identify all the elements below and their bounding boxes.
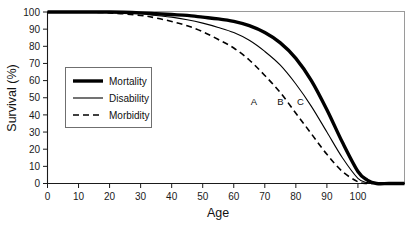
- y-tick-label: 80: [29, 41, 41, 52]
- x-tick-label: 100: [350, 191, 367, 202]
- x-tick-label: 0: [45, 191, 51, 202]
- y-tick-label: 40: [29, 110, 41, 121]
- annotation-B: B: [277, 96, 283, 107]
- y-tick-label: 60: [29, 75, 41, 86]
- x-tick-label: 20: [104, 191, 116, 202]
- x-axis-title: Age: [207, 206, 229, 220]
- x-tick-label: 80: [290, 191, 302, 202]
- y-axis-title: Survival (%): [5, 64, 19, 131]
- y-tick-label: 90: [29, 24, 41, 35]
- x-tick-label: 10: [73, 191, 85, 202]
- legend-label-morbidity: Morbidity: [109, 110, 150, 121]
- y-tick-label: 50: [29, 92, 41, 103]
- x-tick-label: 40: [166, 191, 178, 202]
- x-tick-label: 70: [259, 191, 271, 202]
- x-tick-label: 30: [135, 191, 147, 202]
- survival-curve-figure: 0102030405060708090100 Survival (%) 0102…: [0, 0, 414, 225]
- y-tick-label: 70: [29, 58, 41, 69]
- y-tick-label: 10: [29, 161, 41, 172]
- chart-canvas: 0102030405060708090100 Survival (%) 0102…: [0, 0, 414, 225]
- y-tick-label: 0: [34, 178, 40, 189]
- x-tick-label: 90: [321, 191, 333, 202]
- x-tick-label: 60: [228, 191, 240, 202]
- y-tick-label: 30: [29, 127, 41, 138]
- annotation-A: A: [251, 96, 258, 107]
- annotation-C: C: [297, 96, 304, 107]
- x-tick-label: 50: [197, 191, 209, 202]
- legend: MortalityDisabilityMorbidity: [66, 68, 152, 128]
- y-tick-label: 20: [29, 144, 41, 155]
- legend-label-mortality: Mortality: [109, 76, 147, 87]
- legend-label-disability: Disability: [109, 93, 149, 104]
- y-tick-label: 100: [23, 7, 40, 18]
